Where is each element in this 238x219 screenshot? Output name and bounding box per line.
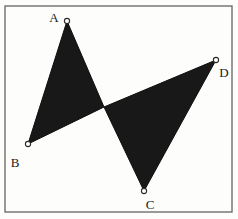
vertex-marker-b (25, 141, 30, 146)
geometry-figure: A B C D (0, 0, 238, 219)
vertex-label-a: A (49, 10, 59, 25)
vertex-marker-d (213, 57, 218, 62)
vertex-label-b: B (11, 155, 20, 170)
vertex-label-c: C (146, 197, 155, 212)
vertex-marker-a (64, 18, 69, 23)
figure-canvas: A B C D (0, 0, 238, 219)
vertex-label-d: D (219, 65, 228, 80)
vertex-marker-c (141, 188, 146, 193)
